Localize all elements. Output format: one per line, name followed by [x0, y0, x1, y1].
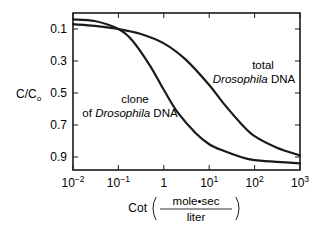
y-axis-label: C/Co [16, 87, 42, 103]
y-tick-label: 0.3 [50, 54, 67, 68]
y-axis-ticks: 0.10.30.50.70.9 [50, 22, 300, 164]
x-tick-label: 101 [200, 174, 218, 190]
x-tick-label: 10−2 [61, 174, 84, 190]
x-axis-label: Cot mole•sec liter [128, 195, 239, 223]
svg-text:Drosophila DNA: Drosophila DNA [213, 73, 296, 85]
y-tick-label: 0.5 [50, 86, 67, 100]
dna-reassociation-chart: 0.10.30.50.70.9 10−210−11101102103 C/Co … [0, 0, 328, 236]
x-tick-label: 102 [246, 174, 264, 190]
y-tick-label: 0.9 [50, 150, 67, 164]
curve-total-dna [73, 24, 300, 155]
curves [73, 19, 300, 163]
svg-text:Cot: Cot [128, 201, 147, 215]
y-tick-label: 0.7 [50, 118, 67, 132]
x-tick-label: 1 [160, 176, 167, 190]
svg-text:total: total [252, 59, 274, 71]
x-axis-ticks: 10−210−11101102103 [61, 13, 309, 190]
svg-text:clone: clone [121, 93, 149, 105]
y-tick-label: 0.1 [50, 22, 67, 36]
label-total-dna: total Drosophila DNA [213, 59, 296, 85]
label-clone-dna: clone of Drosophila DNA [82, 93, 178, 119]
plot-frame [73, 13, 300, 170]
x-tick-label: 103 [291, 174, 309, 190]
svg-text:mole•sec: mole•sec [173, 195, 220, 207]
svg-text:liter: liter [187, 211, 206, 223]
svg-text:of Drosophila DNA: of Drosophila DNA [82, 107, 178, 119]
x-tick-label: 10−1 [107, 174, 130, 190]
